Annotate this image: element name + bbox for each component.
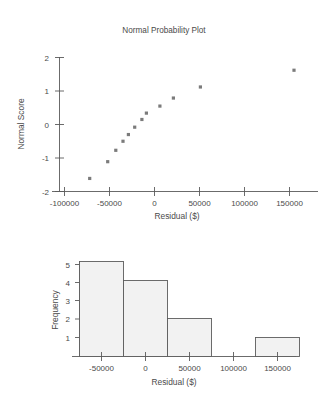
- scatter-point: [127, 133, 130, 136]
- y-ticklabel-neg1: -1: [42, 154, 50, 163]
- hist-x-ticklabel-neg50000: -50000: [89, 364, 114, 373]
- x-ticklabel-neg50000: -50000: [97, 199, 122, 208]
- charts-svg: Normal Probability Plot 2 1 0 -1 -2 Norm…: [0, 0, 329, 405]
- scatter-point: [133, 126, 136, 129]
- scatter-points-layer: [88, 69, 296, 180]
- histogram-bar: [124, 281, 168, 357]
- hist-x-axis-label: Residual ($): [151, 377, 196, 387]
- x-ticklabel-0: 0: [152, 199, 157, 208]
- hist-y-ticklabel-2: 2: [66, 315, 71, 324]
- hist-x-ticklabel-150000: 150000: [264, 364, 291, 373]
- figure-panel: Normal Probability Plot 2 1 0 -1 -2 Norm…: [0, 0, 329, 405]
- x-ticklabel-150000: 150000: [276, 199, 303, 208]
- hist-x-ticklabel-50000: 50000: [178, 364, 201, 373]
- y-axis-label: Normal Score: [16, 98, 26, 150]
- hist-y-ticklabel-1: 1: [66, 334, 71, 343]
- hist-x-ticklabel-0: 0: [143, 364, 148, 373]
- histogram-bars-layer: [80, 262, 300, 357]
- scatter-point: [114, 149, 117, 152]
- scatter-point: [172, 96, 175, 99]
- hist-x-ticklabel-100000: 100000: [220, 364, 247, 373]
- scatter-point: [199, 85, 202, 88]
- scatter-point: [106, 160, 109, 163]
- hist-y-ticklabel-3: 3: [66, 297, 71, 306]
- residual-histogram: 5 4 3 2 1 Frequency -50000 0 50000 10000…: [50, 261, 300, 388]
- x-axis-label: Residual ($): [154, 211, 199, 221]
- histogram-bar: [168, 319, 212, 357]
- y-ticklabel-2: 2: [45, 54, 50, 63]
- scatter-point: [121, 140, 124, 143]
- scatter-point: [88, 177, 91, 180]
- scatter-point: [158, 104, 161, 107]
- scatter-point: [140, 118, 143, 121]
- y-ticklabel-0: 0: [45, 121, 50, 130]
- hist-y-ticklabel-5: 5: [66, 261, 71, 270]
- scatter-point: [145, 112, 148, 115]
- x-ticklabel-neg100000: -100000: [50, 199, 80, 208]
- hist-y-ticklabel-4: 4: [66, 279, 71, 288]
- histogram-bar: [80, 262, 124, 357]
- scatter-point: [292, 69, 295, 72]
- x-ticklabel-50000: 50000: [188, 199, 211, 208]
- hist-y-axis-label: Frequency: [50, 289, 60, 329]
- y-ticklabel-1: 1: [45, 87, 50, 96]
- normal-probability-plot: Normal Probability Plot 2 1 0 -1 -2 Norm…: [16, 26, 318, 221]
- chart-title: Normal Probability Plot: [122, 26, 206, 35]
- y-ticklabel-neg2: -2: [42, 188, 50, 197]
- x-ticklabel-100000: 100000: [231, 199, 258, 208]
